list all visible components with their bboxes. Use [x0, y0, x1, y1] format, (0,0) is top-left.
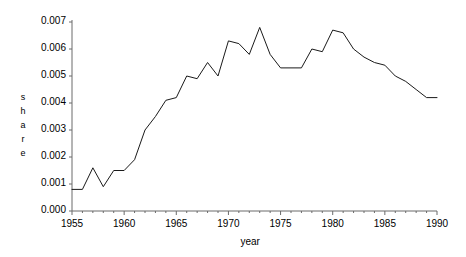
y-tick-label: 0.003	[30, 123, 66, 134]
y-tick-label: 0.007	[30, 15, 66, 26]
y-tick-label: 0.000	[30, 204, 66, 215]
x-tick-label: 1960	[104, 218, 144, 229]
axes-group	[69, 20, 437, 215]
y-axis-title-char: h	[18, 106, 28, 116]
y-axis-title-char: a	[18, 120, 28, 130]
x-axis-ticks	[72, 211, 437, 215]
x-tick-label: 1965	[156, 218, 196, 229]
y-tick-label: 0.004	[30, 96, 66, 107]
y-tick-label: 0.005	[30, 69, 66, 80]
x-axis-title: year	[241, 236, 260, 247]
chart-figure: 0.0000.0010.0020.0030.0040.0050.0060.007…	[0, 0, 466, 257]
x-tick-label: 1975	[261, 218, 301, 229]
y-tick-label: 0.002	[30, 150, 66, 161]
y-axis-title-char: s	[18, 92, 28, 102]
y-tick-label: 0.001	[30, 177, 66, 188]
x-tick-label: 1970	[208, 218, 248, 229]
x-tick-label: 1990	[417, 218, 457, 229]
y-axis-title-char: e	[18, 148, 28, 158]
x-tick-label: 1955	[52, 218, 92, 229]
y-tick-label: 0.006	[30, 42, 66, 53]
y-axis-title-char: r	[18, 134, 28, 144]
x-tick-label: 1980	[313, 218, 353, 229]
x-tick-label: 1985	[365, 218, 405, 229]
share-series-line	[72, 27, 437, 189]
